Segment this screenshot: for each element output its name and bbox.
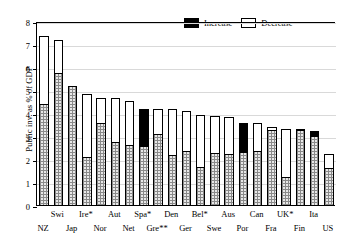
y-axis-tick [33, 46, 37, 47]
y-axis-tick [33, 184, 37, 185]
x-axis-label-swe: Swe [207, 224, 222, 233]
bar-segment-base [253, 151, 263, 206]
bar-fin [296, 129, 306, 206]
y-axis-tick-label: 6 [15, 65, 30, 73]
y-axis-tick [33, 115, 37, 116]
bar-aut [111, 98, 121, 206]
x-axis-label-net: Net [122, 224, 134, 233]
bar-segment-base [139, 146, 149, 206]
x-axis-label-den: Den [164, 210, 178, 219]
gridline [37, 23, 336, 24]
x-axis-label-nz: NZ [37, 224, 48, 233]
x-axis-label-uk: UK* [277, 210, 294, 219]
bar-segment-decrease [125, 101, 135, 145]
gridline [37, 92, 336, 93]
y-axis-tick [33, 23, 37, 24]
bar-us [324, 154, 334, 206]
bar-por [239, 123, 249, 206]
y-axis-tick-label: 5 [15, 88, 30, 96]
y-axis-tick [33, 69, 37, 70]
x-axis-label-bel: Bel* [192, 210, 208, 219]
y-axis-tick-label: 3 [15, 134, 30, 142]
bar-segment-base [182, 151, 192, 206]
y-axis-tick-label: 0 [15, 203, 30, 211]
bar-segment-base [324, 168, 334, 206]
x-axis-label-us: US [322, 224, 333, 233]
bar-segment-base [96, 123, 106, 206]
bar-segment-base [239, 152, 249, 206]
bar-segment-decrease [54, 40, 64, 72]
bar-segment-base [39, 104, 49, 206]
bar-segment-decrease [39, 36, 49, 104]
x-axis-label-spa: Spa* [134, 210, 151, 219]
y-axis-tick [33, 92, 37, 93]
x-axis-label-ger: Ger [179, 224, 192, 233]
y-axis-tick-label: 1 [15, 180, 30, 188]
y-axis-tick [33, 161, 37, 162]
bar-spa [139, 109, 149, 206]
bar-bel [196, 115, 206, 206]
bar-net [125, 101, 135, 206]
x-axis-label-ita: Ita [309, 210, 318, 219]
bar-uk [281, 129, 291, 206]
bar-segment-base [54, 73, 64, 206]
bar-segment-base [310, 136, 320, 206]
x-axis-label-gre: Gre** [146, 224, 167, 233]
bar-segment-base [111, 142, 121, 206]
bar-swi [54, 40, 64, 206]
x-axis-label-aus: Aus [221, 210, 235, 219]
bar-segment-decrease [182, 111, 192, 151]
bar-segment-base [267, 130, 277, 206]
bar-segment-base [82, 157, 92, 206]
bar-segment-decrease [82, 94, 92, 156]
x-axis-label-fra: Fra [265, 224, 276, 233]
bar-segment-base [296, 130, 306, 206]
bar-segment-base [210, 153, 220, 206]
bar-segment-base [68, 86, 78, 206]
bar-segment-decrease [196, 115, 206, 167]
bar-ire [82, 94, 92, 206]
bar-segment-decrease [111, 98, 121, 142]
bar-fra [267, 127, 277, 206]
y-axis-tick-label: 4 [15, 111, 30, 119]
bar-segment-base [125, 145, 135, 206]
bar-gre [153, 109, 163, 206]
bar-ita [310, 131, 320, 206]
y-axis-tick-label: 8 [15, 19, 30, 27]
bar-segment-base [168, 155, 178, 206]
x-axis-line [36, 205, 335, 206]
bar-segment-base [153, 134, 163, 206]
gridline [37, 69, 336, 70]
bar-segment-decrease [153, 109, 163, 133]
bar-segment-base [196, 167, 206, 206]
bar-segment-base [224, 154, 234, 206]
bar-can [253, 123, 263, 206]
bar-segment-decrease [210, 116, 220, 153]
x-axis-label-fin: Fin [294, 224, 305, 233]
x-axis-label-aut: Aut [108, 210, 121, 219]
bar-segment-decrease [224, 117, 234, 154]
plot-area: 012345678 [36, 22, 335, 206]
x-axis-label-ire: Ire* [79, 210, 93, 219]
bar-jap [68, 86, 78, 206]
y-axis-tick-label: 7 [15, 42, 30, 50]
bar-nz [39, 36, 49, 206]
bar-swe [210, 116, 220, 206]
x-axis-label-swi: Swi [51, 210, 64, 219]
y-axis-tick-label: 2 [15, 157, 30, 165]
bar-segment-decrease [96, 98, 106, 123]
x-axis-label-jap: Jap [66, 224, 77, 233]
x-axis-label-nor: Nor [93, 224, 106, 233]
gridline [37, 46, 336, 47]
x-axis-label-por: Por [237, 224, 249, 233]
bar-segment-decrease [324, 154, 334, 168]
bar-den [168, 109, 178, 206]
bar-segment-decrease [281, 129, 291, 177]
bar-segment-decrease [168, 109, 178, 155]
bar-segment-decrease [253, 123, 263, 151]
bar-aus [224, 117, 234, 206]
chart-figure: Public inv. as % of GDP Increase Decreas… [0, 0, 343, 246]
bar-segment-increase [139, 109, 149, 146]
bar-segment-base [281, 177, 291, 206]
bar-ger [182, 111, 192, 206]
